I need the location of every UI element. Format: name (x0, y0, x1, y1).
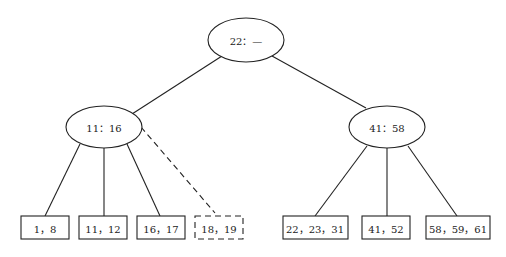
edge-root-right (272, 56, 366, 108)
leaf-label: 22，23，31 (286, 221, 344, 236)
leaf-label: 1，8 (34, 221, 57, 236)
edge-right-leaf3 (408, 146, 457, 216)
leaf-label: 11，12 (85, 221, 120, 236)
leaf-label: 58，59，61 (429, 221, 487, 236)
leaf-label: 16，17 (143, 221, 178, 236)
internal-right-label: 41：58 (369, 120, 404, 135)
edge-right-leaf1 (315, 146, 367, 216)
root-label: 22：— (230, 33, 263, 48)
edge-left-leaf1 (45, 144, 80, 216)
edge-left-leaf3 (127, 144, 160, 216)
leaf-label: 18，19 (201, 221, 236, 236)
edge-left-leaf4-dashed (141, 127, 215, 213)
internal-left-label: 11：16 (86, 120, 121, 135)
edge-root-left (132, 56, 222, 114)
leaf-label: 41，52 (368, 221, 403, 236)
